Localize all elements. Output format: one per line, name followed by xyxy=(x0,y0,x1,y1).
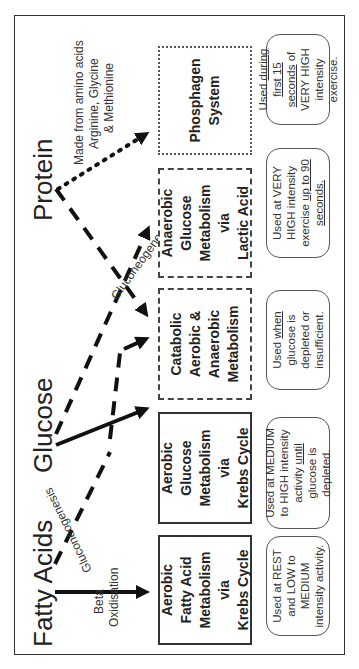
callout-text: Used xyxy=(271,339,283,369)
box-line: via xyxy=(215,550,234,631)
box-line: Glucose xyxy=(177,428,196,509)
arrow-glucose-catabolic xyxy=(124,339,146,349)
energy-systems-diagram: Fatty Acids Glucose Protein Beta Oxidisa… xyxy=(0,0,359,669)
callout-text: Used at REST and LOW to MEDIUM intensity… xyxy=(271,545,325,628)
box-phosphagen: Phosphagen System xyxy=(158,46,252,155)
callout-aerobic-glucose: Used at MEDIUM to HIGH intensity activit… xyxy=(266,417,330,529)
box-line: Krebs Cycle xyxy=(234,428,253,509)
box-line: Metabolism xyxy=(196,550,215,631)
callout-text: glucose is depleted or insufficient. xyxy=(285,311,325,369)
box-line: Anaerobic xyxy=(158,185,177,262)
callout-emphasis: until xyxy=(292,443,304,464)
box-anaerobic-glucose: Anaerobic Glucose Metabolism via Lactic … xyxy=(158,168,252,278)
box-line: Krebs Cycle xyxy=(234,550,253,631)
source-protein: Protein xyxy=(28,139,59,221)
box-line: Metabolism xyxy=(224,306,243,383)
label-beta: Beta xyxy=(92,589,106,614)
box-line: Aerobic xyxy=(158,428,177,509)
label-amino-3: & Methionine xyxy=(102,63,116,133)
label-oxidisation: Oxidisation xyxy=(107,568,121,627)
box-line: Fatty Acid xyxy=(177,550,196,631)
label-amino-2: Arginine, Glycine xyxy=(87,58,101,149)
box-line: System xyxy=(205,59,224,143)
box-line: Lactic Acid xyxy=(234,185,253,262)
label-amino-1: Made from amino acids xyxy=(72,40,86,165)
box-line: Aerobic xyxy=(158,550,177,631)
box-line: Anaerobic xyxy=(205,306,224,383)
arrow-gluconeogenesis-protein xyxy=(56,189,146,314)
box-line: Glucose xyxy=(177,185,196,262)
callout-text: Used at MEDIUM to HIGH intensity activit… xyxy=(264,428,304,517)
source-glucose: Glucose xyxy=(28,378,59,473)
callout-catabolic: Used when glucose is depleted or insuffi… xyxy=(266,290,330,390)
box-line: Catabolic xyxy=(167,306,186,383)
callout-aerobic-fatty-acid: Used at REST and LOW to MEDIUM intensity… xyxy=(266,536,330,636)
arrow-glucose-catabolic-dash xyxy=(110,353,120,439)
box-line: Phosphagen xyxy=(186,59,205,143)
box-line: via xyxy=(215,185,234,262)
box-aerobic-fatty-acid: Aerobic Fatty Acid Metabolism via Krebs … xyxy=(158,535,252,645)
box-aerobic-glucose: Aerobic Glucose Metabolism via Krebs Cyc… xyxy=(158,412,252,524)
callout-phosphagen: Used during first 15 seconds of VERY HIG… xyxy=(266,34,330,125)
callout-emphasis: when xyxy=(271,311,283,339)
arrow-glucose-aerobic xyxy=(56,409,146,445)
box-line: Metabolism xyxy=(196,185,215,262)
box-line: Aerobic & xyxy=(186,306,205,383)
source-fatty-acids: Fatty Acids xyxy=(28,520,59,647)
callout-text: Used xyxy=(257,80,269,110)
box-line: Metabolism xyxy=(196,428,215,509)
box-line: via xyxy=(215,428,234,509)
box-catabolic: Catabolic Aerobic & Anaerobic Metabolism xyxy=(158,288,252,400)
callout-text: glucose is depleted. xyxy=(306,447,332,498)
callout-anaerobic-glucose: Used at VERY HIGH intensity exercise up … xyxy=(266,148,330,258)
